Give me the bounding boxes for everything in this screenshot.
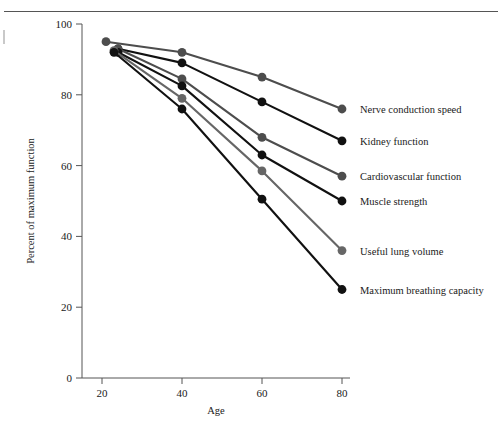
data-point[interactable]	[338, 105, 347, 114]
y-tick-label: 60	[61, 160, 73, 172]
data-point[interactable]	[178, 94, 187, 103]
data-point[interactable]	[258, 195, 267, 204]
data-point[interactable]	[258, 151, 267, 160]
data-point[interactable]	[338, 136, 347, 145]
y-tick-label: 80	[61, 89, 73, 101]
line-chart: 02040608010020406080AgePercent of maximu…	[0, 0, 502, 423]
figure-canvas: 02040608010020406080AgePercent of maximu…	[0, 0, 502, 423]
data-point[interactable]	[102, 37, 111, 46]
data-point[interactable]	[178, 48, 187, 57]
data-point[interactable]	[258, 73, 267, 82]
x-tick-label: 20	[97, 387, 109, 399]
series-line-5[interactable]	[114, 52, 342, 289]
data-point[interactable]	[258, 167, 267, 176]
series-label-2: Cardiovascular function	[360, 171, 462, 182]
data-point[interactable]	[338, 246, 347, 255]
data-point[interactable]	[258, 98, 267, 107]
data-point[interactable]	[178, 105, 187, 114]
y-tick-label: 0	[67, 372, 73, 384]
series-label-4: Useful lung volume	[360, 246, 444, 257]
data-point[interactable]	[338, 285, 347, 294]
data-point[interactable]	[338, 172, 347, 181]
y-tick-label: 100	[56, 18, 73, 30]
series-label-0: Nerve conduction speed	[360, 104, 462, 115]
x-axis-label: Age	[207, 405, 225, 416]
y-axis-label: Percent of maximum function	[25, 137, 36, 263]
data-point[interactable]	[178, 82, 187, 91]
x-tick-label: 60	[257, 387, 269, 399]
y-tick-label: 20	[61, 301, 73, 313]
series-label-3: Muscle strength	[360, 196, 428, 207]
data-point[interactable]	[110, 48, 119, 57]
data-point[interactable]	[258, 133, 267, 142]
series-label-5: Maximum breathing capacity	[360, 285, 484, 296]
series-label-1: Kidney function	[360, 136, 429, 147]
x-tick-label: 40	[177, 387, 189, 399]
x-tick-label: 80	[337, 387, 349, 399]
data-point[interactable]	[338, 197, 347, 206]
y-tick-label: 40	[61, 230, 73, 242]
data-point[interactable]	[178, 59, 187, 68]
series-line-3[interactable]	[118, 52, 342, 201]
